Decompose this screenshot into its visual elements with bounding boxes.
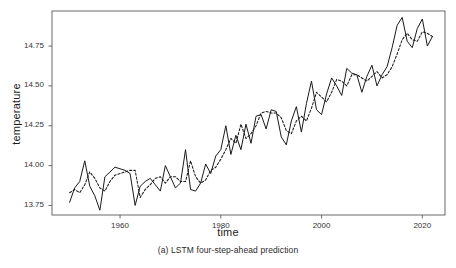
chart-figure: temperature time (a) LSTM four-step-ahea… xyxy=(0,0,456,268)
series-line-predicted xyxy=(70,32,433,198)
x-tick-label: 2000 xyxy=(302,221,342,230)
x-tick-label: 1960 xyxy=(100,221,140,230)
axis-ticks xyxy=(49,46,423,218)
y-axis-title: temperature xyxy=(10,54,22,174)
plot-border xyxy=(52,11,445,215)
plot-frame xyxy=(52,11,445,215)
x-tick-label: 1980 xyxy=(201,221,241,230)
y-tick-label: 14.00 xyxy=(10,160,44,169)
y-tick-label: 14.25 xyxy=(10,120,44,129)
y-tick-label: 14.75 xyxy=(10,41,44,50)
y-tick-label: 13.75 xyxy=(10,200,44,209)
y-tick-label: 14.50 xyxy=(10,80,44,89)
series-line-observed xyxy=(70,17,433,210)
x-tick-label: 2020 xyxy=(402,221,442,230)
figure-caption: (a) LSTM four-step-ahead prediction xyxy=(0,245,456,255)
data-series-group xyxy=(70,17,433,210)
